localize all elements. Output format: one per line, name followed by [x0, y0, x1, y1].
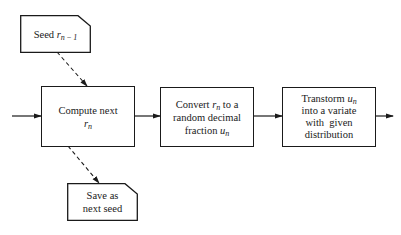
save-line2: next seed	[83, 202, 122, 215]
save-line1: Save as	[87, 189, 119, 202]
transform-text-a: Transtorm	[301, 93, 347, 104]
transform-node: Transtorm un into a variate with given d…	[282, 87, 376, 147]
compute-to-save-dashed-arrow	[68, 146, 99, 183]
transform-line1: Transtorm un	[301, 93, 356, 105]
convert-text-b: to a	[220, 99, 238, 110]
seed-label: Seed rn − 1	[34, 28, 78, 41]
convert-line3: fraction un	[185, 124, 230, 137]
convert-line2: random decimal	[173, 111, 241, 124]
compute-node: Compute next rn	[41, 86, 135, 147]
convert-sub-u: n	[225, 129, 229, 138]
convert-line1: Convert rn to a	[176, 98, 239, 111]
transform-line3: with given	[305, 117, 352, 129]
save-node: Save as next seed	[67, 183, 138, 221]
seed-subscript: n − 1	[61, 33, 78, 42]
seed-to-compute-dashed-arrow	[57, 52, 87, 86]
seed-text: Seed	[34, 29, 57, 40]
transform-line4: distribution	[305, 129, 353, 141]
compute-subscript: n	[88, 122, 92, 131]
convert-text-a: Convert	[176, 99, 212, 110]
compute-line1: Compute next	[58, 104, 117, 117]
seed-node: Seed rn − 1	[20, 15, 91, 53]
convert-text-c: fraction	[185, 125, 220, 136]
transform-line2: into a variate	[302, 105, 357, 117]
compute-line2: rn	[84, 117, 92, 130]
convert-node: Convert rn to a random decimal fraction …	[160, 87, 254, 147]
